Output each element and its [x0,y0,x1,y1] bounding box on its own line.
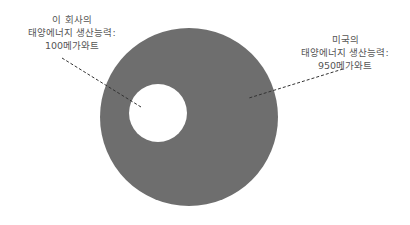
usa-label-line3: 950메가와트 [290,59,400,72]
company-label-line3: 100메가와트 [22,39,122,52]
usa-capacity-circle [100,28,278,206]
company-capacity-label: 이 회사의 태양에너지 생산능력: 100메가와트 [22,13,122,52]
usa-capacity-label: 미국의 태양에너지 생산능력: 950메가와트 [290,33,400,72]
company-label-line1: 이 회사의 [22,13,122,26]
company-capacity-circle [129,84,187,142]
usa-label-line2: 태양에너지 생산능력: [290,46,400,59]
usa-label-line1: 미국의 [290,33,400,46]
company-label-line2: 태양에너지 생산능력: [22,26,122,39]
